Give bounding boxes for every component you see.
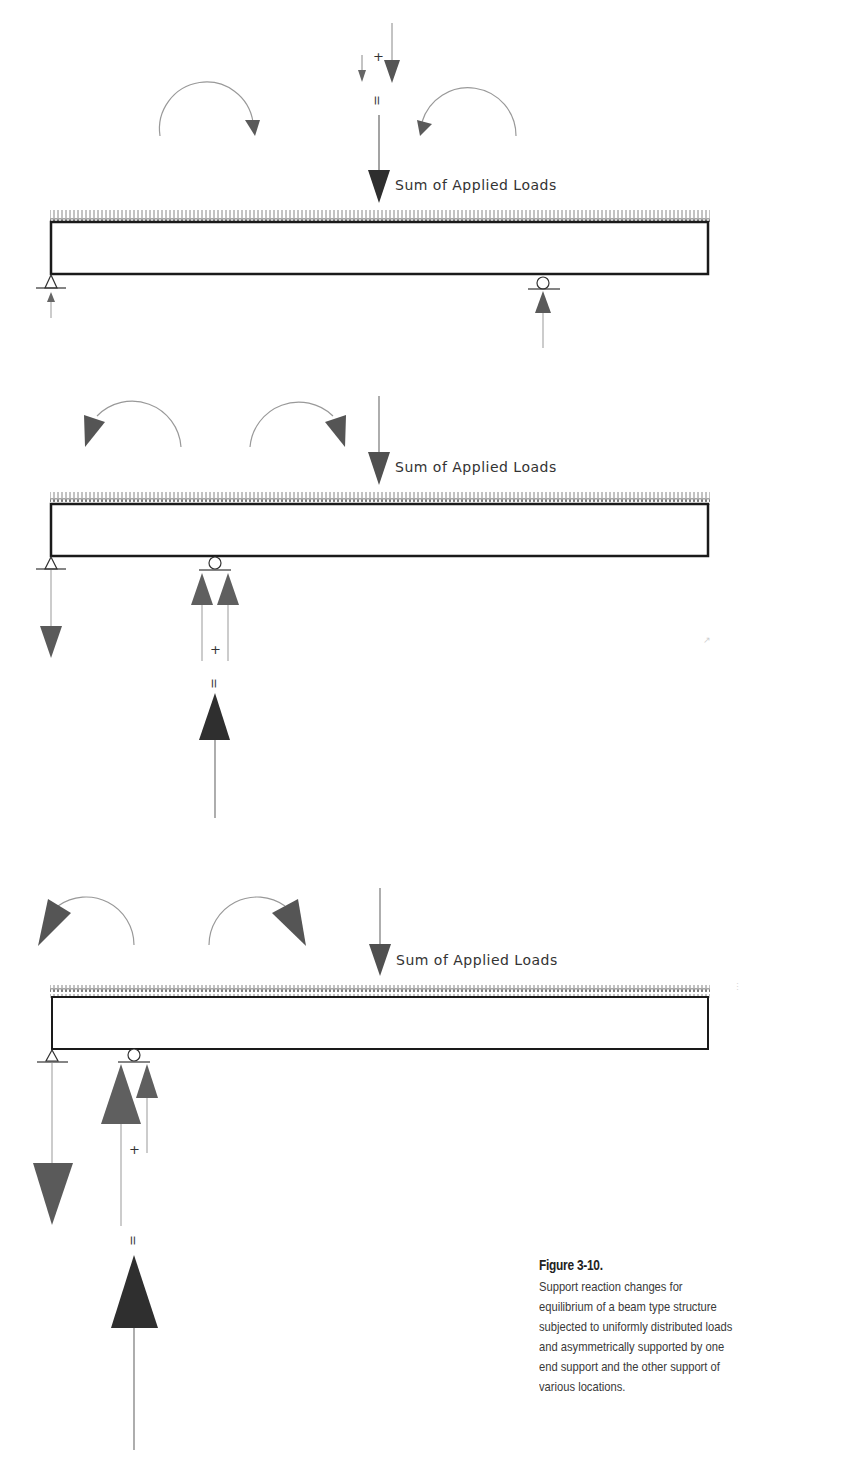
scan-artifact: ↗: [703, 635, 711, 645]
equals-symbol: =: [126, 1235, 141, 1246]
sum-load-arrow-icon: [368, 115, 390, 203]
caption-line: subjected to uniformly distributed loads: [539, 1317, 831, 1337]
caption-line: Support reaction changes for: [539, 1277, 831, 1297]
sum-load-label: Sum of Applied Loads: [395, 459, 557, 475]
counterclockwise-moment-icon: [84, 401, 181, 447]
pin-support-icon: [36, 557, 66, 569]
sum-load-label: Sum of Applied Loads: [395, 177, 557, 193]
caption-line: end support and the other support of: [539, 1357, 831, 1377]
plus-symbol: +: [129, 1142, 140, 1157]
pin-support-icon: [36, 275, 66, 288]
plus-symbol: +: [373, 49, 384, 64]
small-load-component-icon: [358, 55, 366, 82]
equals-symbol: =: [370, 95, 385, 106]
sum-load-arrow-icon: [369, 888, 391, 976]
left-reaction-down-arrow-icon: [33, 1063, 73, 1225]
left-reaction-arrow-icon: [47, 292, 55, 318]
roller-reaction-component-2-icon: [136, 1064, 158, 1153]
clockwise-moment-icon: [250, 402, 346, 447]
resultant-roller-reaction-arrow-icon: [199, 693, 230, 818]
sum-load-label: Sum of Applied Loads: [396, 952, 558, 968]
caption-body: Support reaction changes for equilibrium…: [539, 1277, 831, 1397]
pin-support-icon: [37, 1050, 68, 1062]
sum-load-arrow-icon: [368, 396, 390, 485]
figure-caption: Figure 3-10. Support reaction changes fo…: [539, 1257, 839, 1397]
clockwise-moment-icon: [209, 897, 306, 946]
resultant-roller-reaction-arrow-icon: [111, 1255, 158, 1450]
left-reaction-down-arrow-icon: [40, 570, 62, 658]
roller-support-icon: [118, 1049, 150, 1062]
caption-line: and asymmetrically supported by one: [539, 1337, 831, 1357]
diagram-case-1: + = Sum of Applied Loads: [36, 23, 710, 348]
beam: [52, 997, 708, 1049]
beam: [51, 504, 708, 556]
scan-artifact: ⋮: [733, 982, 742, 992]
equals-symbol: =: [207, 678, 222, 689]
plus-symbol: +: [210, 642, 221, 657]
figure-number: Figure 3-10.: [539, 1257, 794, 1273]
diagram-case-2: Sum of Applied Loads + = ↗: [36, 396, 711, 818]
caption-line: various locations.: [539, 1377, 831, 1397]
large-load-component-icon: [384, 23, 400, 83]
counterclockwise-moment-icon: [38, 897, 134, 946]
roller-support-icon: [199, 557, 231, 570]
roller-support-icon: [528, 277, 560, 289]
counterclockwise-moment-icon: [417, 88, 516, 136]
caption-line: equilibrium of a beam type structure: [539, 1297, 831, 1317]
right-reaction-arrow-icon: [535, 291, 551, 348]
beam: [51, 222, 708, 274]
clockwise-moment-icon: [159, 82, 260, 136]
